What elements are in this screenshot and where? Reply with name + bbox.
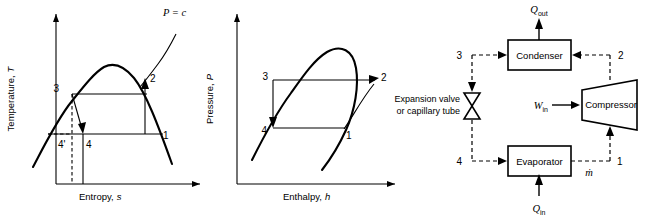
compressor-label: Compressor: [585, 99, 637, 110]
ph-arrow-to-2: [369, 75, 379, 84]
expansion-valve-icon: [464, 93, 480, 119]
expansion-valve-label-line2: or capillary tube: [396, 106, 460, 116]
w-in-label: Win: [534, 100, 548, 113]
evaporator-label: Evaporator: [516, 156, 562, 167]
ph-saturation-dome: [252, 49, 357, 170]
expansion-valve-label-line1: Expansion valve: [394, 94, 460, 104]
condenser-label: Condenser: [516, 50, 562, 61]
ts-constant-pressure-line: [140, 34, 176, 87]
ph-process-1-2: [344, 84, 374, 129]
schematic-point-1-label: 1: [617, 156, 623, 167]
q-out-arrowhead: [535, 18, 543, 29]
arrow-into-condenser: [498, 51, 507, 59]
schematic-point-3-label: 3: [456, 50, 462, 61]
ts-point-4prime-label: 4': [58, 139, 66, 150]
ph-x-arrowhead: [387, 181, 395, 187]
ph-x-axis-label: Enthalpy,h: [283, 191, 330, 202]
refrigeration-cycle-figure: 1 2 3 4 4' P = c Entropy,s Temperature,T: [0, 0, 649, 221]
q-in-label: Qin: [532, 203, 545, 216]
ts-x-arrowhead: [192, 181, 200, 187]
ph-point-2-label: 2: [381, 72, 387, 83]
ts-point-2-label: 2: [150, 73, 156, 84]
ts-x-axis-label: Entropy,s: [79, 191, 122, 202]
arrow-into-compressor: [606, 126, 614, 136]
mass-flow-rate-label: ṁ: [585, 167, 593, 178]
ts-point-1-label: 1: [163, 130, 169, 141]
arrow-into-valve: [468, 82, 476, 92]
q-out-label: Qout: [530, 4, 547, 17]
ts-axes: [53, 14, 200, 187]
ts-y-arrowhead: [53, 14, 59, 22]
ph-point-1-label: 1: [346, 130, 352, 141]
ts-y-axis-label: Temperature,T: [5, 65, 16, 131]
ts-arrow-1-2: [141, 78, 149, 89]
system-schematic-panel: Condenser Evaporator Compressor Expansio…: [430, 0, 649, 221]
arrow-into-evaporator: [498, 157, 507, 165]
ph-axes: [234, 14, 395, 187]
ts-diagram-panel: 1 2 3 4 4' P = c Entropy,s Temperature,T: [0, 0, 215, 221]
schematic-point-4-label: 4: [456, 156, 462, 167]
ts-constant-pressure-label: P = c: [162, 7, 187, 18]
ph-y-arrowhead: [234, 14, 240, 22]
schematic-point-2-label: 2: [618, 50, 624, 61]
ph-point-4-label: 4: [261, 125, 267, 136]
arrow-2-into-condenser: [572, 51, 581, 59]
ph-y-axis-label: Pressure,P: [204, 73, 215, 124]
ts-arrow-3-4: [78, 122, 86, 134]
w-in-arrowhead: [571, 101, 580, 109]
ts-point-3-label: 3: [53, 83, 59, 94]
ts-point-4-label: 4: [86, 139, 92, 150]
ph-point-3-label: 3: [262, 71, 268, 82]
